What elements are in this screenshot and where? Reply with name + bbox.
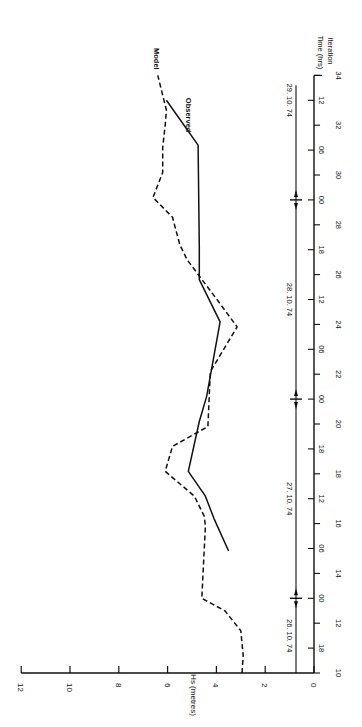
date-label: 28. 10. 74 bbox=[285, 283, 294, 316]
time-tick-label: 12 bbox=[317, 495, 326, 503]
iteration-tick-label: 20 bbox=[334, 420, 343, 428]
arrow-up-icon bbox=[294, 588, 298, 595]
iteration-tick-label: 26 bbox=[334, 270, 343, 278]
legend-observed-label: Observed bbox=[184, 98, 193, 133]
axes bbox=[21, 75, 322, 673]
time-axis-title: Time (hrs) bbox=[316, 35, 325, 69]
iteration-tick-label: 18 bbox=[334, 470, 343, 478]
time-tick-label: 06 bbox=[317, 345, 326, 353]
iteration-tick-label: 16 bbox=[334, 519, 343, 527]
iteration-axis-title: Iteration bbox=[326, 37, 335, 64]
time-tick-label: 18 bbox=[317, 445, 326, 453]
time-tick-label: 12 bbox=[317, 96, 326, 104]
time-tick-label: 00 bbox=[317, 395, 326, 403]
time-tick-label: 00 bbox=[317, 594, 326, 602]
date-label: 26. 10. 74 bbox=[285, 619, 294, 652]
hs-tick-label: 8 bbox=[114, 683, 123, 688]
arrow-up-icon bbox=[294, 389, 298, 396]
iteration-tick-label: 32 bbox=[334, 121, 343, 129]
legend-model-label: Model bbox=[152, 48, 161, 70]
iteration-tick-label: 12 bbox=[334, 619, 343, 627]
hs-tick-label: 0 bbox=[309, 683, 318, 688]
series-observed-line bbox=[166, 100, 228, 551]
axis-labels: 024681012Hs (metres)10121416182022242628… bbox=[16, 35, 343, 716]
arrow-down-icon bbox=[294, 402, 298, 409]
iteration-tick-label: 34 bbox=[334, 71, 343, 79]
hs-tick-label: 10 bbox=[65, 683, 74, 692]
time-tick-label: 00 bbox=[317, 196, 326, 204]
hs-tick-label: 4 bbox=[211, 683, 220, 688]
date-label: 29. 10. 74 bbox=[285, 84, 294, 117]
time-tick-label: 12 bbox=[317, 295, 326, 303]
data-series bbox=[153, 75, 243, 673]
hs-tick-label: 6 bbox=[163, 683, 172, 688]
axis-ticks bbox=[21, 75, 320, 673]
arrow-down-icon bbox=[294, 203, 298, 210]
arrow-up-icon bbox=[294, 190, 298, 197]
date-label: 27. 10. 74 bbox=[285, 482, 294, 515]
iteration-tick-label: 24 bbox=[334, 320, 343, 328]
hs-axis-title: Hs (metres) bbox=[189, 674, 198, 716]
iteration-tick-label: 10 bbox=[334, 669, 343, 677]
time-tick-label: 18 bbox=[317, 644, 326, 652]
hs-tick-label: 2 bbox=[260, 683, 269, 688]
iteration-tick-label: 14 bbox=[334, 569, 343, 577]
iteration-tick-label: 28 bbox=[334, 221, 343, 229]
iteration-tick-label: 30 bbox=[334, 171, 343, 179]
time-tick-label: 18 bbox=[317, 246, 326, 254]
iteration-tick-label: 22 bbox=[334, 370, 343, 378]
arrow-down-icon bbox=[294, 601, 298, 608]
hs-tick-label: 12 bbox=[16, 683, 25, 692]
time-tick-label: 06 bbox=[317, 544, 326, 552]
wave-height-chart: 024681012Hs (metres)10121416182022242628… bbox=[0, 0, 362, 727]
time-tick-label: 06 bbox=[317, 146, 326, 154]
